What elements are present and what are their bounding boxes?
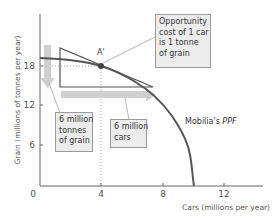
point-label-a-prime: A': [97, 48, 105, 57]
callout-line: cost of 1 car: [159, 28, 207, 39]
callout-line: is 1 tonne: [159, 38, 207, 49]
y-tick-label-18: 18: [24, 61, 36, 71]
callout-line: of grain: [59, 136, 89, 147]
ppf-chart: 18 12 6 0 4 8 12 Cars (millions per year…: [0, 0, 278, 221]
leader-grain: [49, 83, 60, 113]
ppf-label: Mobilia's PPF: [185, 117, 237, 126]
point-a-prime: [98, 63, 104, 69]
callout-grain: 6 million tonnes of grain: [55, 112, 93, 152]
leader-opportunity: [103, 37, 155, 63]
y-tick-label-12: 12: [24, 100, 35, 110]
ppf-label-name: Mobilia's: [185, 117, 220, 126]
origin-label: 0: [30, 189, 36, 199]
y-axis-title: Grain (millions of tonnes per year): [13, 35, 22, 164]
leader-cars: [125, 98, 129, 120]
callout-line: Opportunity: [159, 17, 207, 28]
callout-line: 6 million: [114, 122, 143, 133]
x-tick-label-12: 12: [218, 189, 229, 199]
right-arrow-cars: [61, 88, 156, 102]
callout-line: cars: [114, 133, 143, 144]
x-tick-label-4: 4: [98, 189, 104, 199]
y-tick-label-6: 6: [29, 140, 35, 150]
callout-opportunity-cost: Opportunity cost of 1 car is 1 tonne of …: [155, 14, 211, 68]
ppf-label-suffix: PPF: [222, 117, 236, 126]
callout-line: tonnes: [59, 126, 89, 137]
callout-cars: 6 million cars: [110, 119, 147, 148]
callout-line: 6 million: [59, 115, 89, 126]
x-axis-title: Cars (millions per year): [182, 203, 270, 212]
x-tick-label-8: 8: [160, 189, 166, 199]
callout-line: of grain: [159, 49, 207, 60]
